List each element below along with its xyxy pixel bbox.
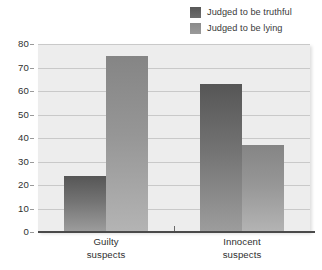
y-axis-tick-label: 0 (23, 227, 29, 237)
legend-item-lying: Judged to be lying (190, 22, 320, 35)
y-axis-tick-label: 80 (18, 39, 29, 49)
y-axis-tick-label: 20 (18, 180, 29, 190)
y-axis: 01020304050607080 (0, 44, 34, 232)
y-axis-tick-label: 30 (18, 157, 29, 167)
legend-swatch-truthful-icon (190, 7, 201, 18)
bar-lying-innocent-suspects (242, 145, 284, 232)
x-axis-center-tick-icon (174, 226, 175, 231)
x-axis-category-label-line: Innocent (174, 236, 310, 249)
y-axis-tick-mark-icon (30, 209, 34, 210)
y-axis-tick-label: 40 (18, 133, 29, 143)
y-axis-tick-mark-icon (30, 138, 34, 139)
y-axis-tick-mark-icon (30, 68, 34, 69)
chart-legend: Judged to be truthful Judged to be lying (190, 6, 320, 38)
y-axis-tick-label: 60 (18, 86, 29, 96)
y-axis-tick-label: 10 (18, 204, 29, 214)
y-axis-tick-mark-icon (30, 91, 34, 92)
legend-label-truthful: Judged to be truthful (207, 7, 292, 18)
y-axis-tick-label: 70 (18, 63, 29, 73)
bar-truthful-innocent-suspects (200, 84, 242, 232)
gridline (38, 44, 310, 45)
y-axis-tick-mark-icon (30, 162, 34, 163)
legend-label-lying: Judged to be lying (207, 23, 282, 34)
x-axis-category-label-line: Guilty (38, 236, 174, 249)
plot-area (38, 44, 310, 232)
gridline (38, 138, 310, 139)
bar-truthful-guilty-suspects (64, 176, 106, 232)
y-axis-tick-label: 50 (18, 110, 29, 120)
y-axis-tick-mark-icon (30, 185, 34, 186)
legend-swatch-lying-icon (190, 23, 201, 34)
x-axis-category-label-line: suspects (38, 249, 174, 262)
grouped-bar-chart: Judged to be truthful Judged to be lying… (0, 0, 322, 270)
y-axis-tick-mark-icon (30, 115, 34, 116)
bar-lying-guilty-suspects (106, 56, 148, 232)
legend-item-truthful: Judged to be truthful (190, 6, 320, 19)
gridline (38, 115, 310, 116)
y-axis-tick-mark-icon (30, 232, 34, 233)
x-axis-category-label-line: suspects (174, 249, 310, 262)
x-axis-category-label: Guiltysuspects (38, 236, 174, 261)
gridline (38, 68, 310, 69)
x-axis-category-label: Innocentsuspects (174, 236, 310, 261)
gridline (38, 91, 310, 92)
x-axis-line (38, 231, 315, 233)
y-axis-tick-mark-icon (30, 44, 34, 45)
